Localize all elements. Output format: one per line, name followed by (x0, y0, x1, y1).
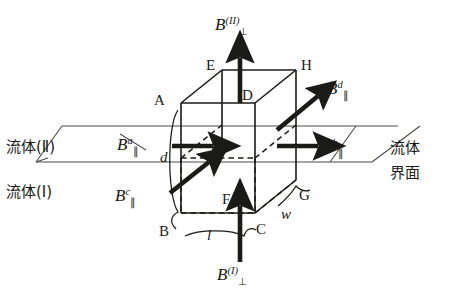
B-par-b-subscript: ∥ (338, 147, 344, 159)
B-perp-II-superscript: (II) (225, 15, 239, 26)
label-B-par-a: Ba∥ (117, 136, 139, 157)
vertex-label-H: H (301, 58, 312, 73)
B-par-d-subscript: ∥ (343, 89, 349, 101)
label-B-par-d: Bd∥ (327, 80, 349, 101)
arrow-B-par-d (277, 96, 318, 130)
B-par-c-base: B (115, 186, 125, 205)
interface-plane (36, 126, 420, 162)
B-par-c-subscript: ∥ (130, 196, 136, 208)
label-B-par-b: Bb∥ (322, 138, 344, 159)
label-interface-line2: 界面 (390, 166, 420, 181)
label-B-perp-I: B(I)⊥ (217, 266, 247, 287)
dimension-label-w: w (281, 207, 291, 222)
arrow-B-par-c (170, 162, 209, 193)
label-B-par-c: Bc∥ (115, 187, 136, 208)
B-par-a-base: B (117, 135, 127, 154)
label-fluid-two: 流体(Ⅱ) (6, 140, 55, 155)
B-perp-I-superscript: (I) (227, 265, 238, 276)
B-perp-I-base: B (217, 265, 227, 284)
diagram-svg (0, 0, 451, 294)
vertex-label-E: E (206, 58, 215, 73)
label-B-perp-II: B(II)⊥ (215, 16, 248, 37)
dimension-label-l: l (207, 228, 211, 243)
B-par-d-base: B (327, 79, 337, 98)
B-perp-I-subscript: ⊥ (238, 276, 247, 287)
vertex-label-G: G (299, 188, 310, 203)
B-par-a-subscript: ∥ (133, 145, 139, 157)
vertex-label-D: D (242, 88, 253, 103)
label-interface-line1: 流体 (390, 141, 420, 156)
vertex-label-A: A (154, 93, 165, 108)
vertex-label-F: F (222, 192, 230, 207)
figure-canvas: B(II)⊥ B(I)⊥ Ba∥ Bb∥ Bc∥ Bd∥ A B C D E F… (0, 0, 451, 294)
vertex-label-C: C (256, 222, 266, 237)
vertex-label-B: B (159, 224, 169, 239)
B-perp-II-subscript: ⊥ (239, 26, 248, 37)
dimension-label-d: d (160, 150, 168, 165)
label-fluid-one: 流体(Ⅰ) (6, 185, 52, 200)
B-perp-II-base: B (215, 15, 225, 34)
B-par-b-base: B (322, 137, 332, 156)
